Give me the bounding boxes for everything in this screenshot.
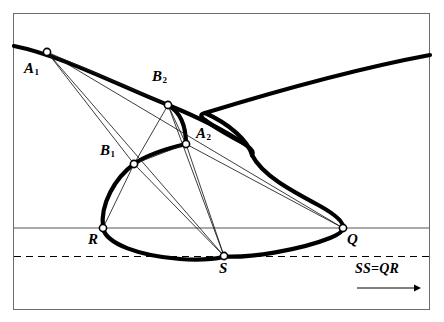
point-marker-Q[interactable]	[339, 224, 346, 231]
point-label-Q: Q	[347, 232, 358, 247]
point-marker-B2[interactable]	[164, 101, 171, 108]
point-marker-B1[interactable]	[130, 160, 137, 167]
point-label-B2: B2	[152, 69, 167, 85]
point-label-A2: A2	[196, 126, 211, 142]
point-label-A2-subscript: 2	[206, 132, 211, 142]
point-label-S: S	[219, 261, 227, 276]
point-label-A1-letter: A	[24, 60, 34, 76]
point-label-A2-letter: A	[196, 125, 206, 141]
ss-equals-qr-label: SS=QR	[355, 262, 399, 276]
point-label-R: R	[88, 232, 98, 247]
figure-root: A1 B2 A2 B1 R S Q SS=QR	[0, 0, 444, 322]
point-marker-A1[interactable]	[43, 48, 50, 55]
point-marker-A2[interactable]	[182, 140, 189, 147]
point-label-B1-subscript: 1	[110, 149, 115, 159]
point-label-B2-letter: B	[152, 68, 162, 84]
point-marker-R[interactable]	[99, 224, 106, 231]
point-label-B1: B1	[100, 143, 115, 159]
point-label-A1: A1	[24, 61, 39, 77]
point-label-B2-subscript: 2	[162, 75, 167, 85]
point-label-A1-subscript: 1	[34, 67, 39, 77]
point-marker-S[interactable]	[220, 252, 227, 259]
point-label-B1-letter: B	[100, 142, 110, 158]
